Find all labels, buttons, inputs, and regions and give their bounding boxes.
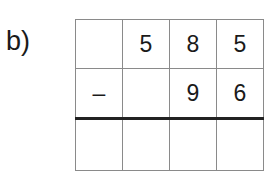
exercise-label: b) [6,25,30,57]
answer-cell[interactable] [217,119,264,171]
grid-cell: 8 [170,20,217,69]
grid-cell [123,69,170,119]
subtraction-grid: 5 8 5 – 9 6 [75,19,264,171]
grid-cell: 6 [217,69,264,119]
answer-row [76,119,264,171]
subtrahend-row: – 9 6 [76,69,264,119]
minuend-row: 5 8 5 [76,20,264,69]
grid-cell [76,20,123,69]
answer-cell[interactable] [76,119,123,171]
answer-cell[interactable] [123,119,170,171]
minus-sign: – [76,69,123,119]
answer-cell[interactable] [170,119,217,171]
grid-cell: 5 [217,20,264,69]
grid-cell: 5 [123,20,170,69]
grid-cell: 9 [170,69,217,119]
